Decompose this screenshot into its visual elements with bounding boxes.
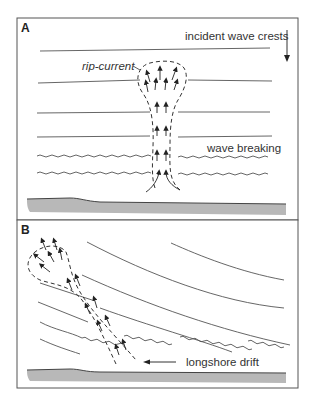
rip-current-label: rip-current [82,60,135,72]
rip-current-figure: A incident wave crests wave breaking rip… [0,0,313,402]
panel-a-letter: A [21,21,30,35]
longshore-drift-label: longshore drift [186,356,260,368]
wave-breaking-label: wave breaking [206,142,281,154]
panel-b-letter: B [21,223,30,237]
panel-a: A incident wave crests wave breaking rip… [17,18,298,220]
incident-wave-crests-label: incident wave crests [185,30,289,42]
panel-b: B [17,220,298,388]
